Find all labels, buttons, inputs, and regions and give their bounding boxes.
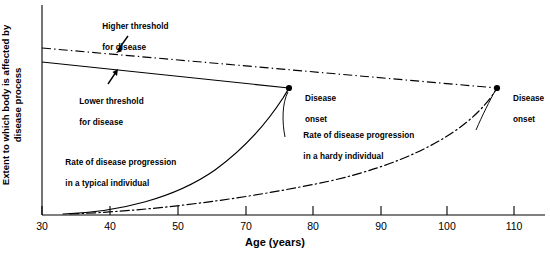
x-tick-label-40: 40 — [90, 220, 130, 232]
higher-threshold-annotation-line1: Higher threshold — [102, 22, 168, 31]
y-axis-label-line1: Extent to which body is affected by — [0, 25, 11, 185]
lower-threshold-annotation: Lower threshold for disease — [70, 86, 144, 139]
series-lower-threshold — [42, 62, 289, 88]
y-axis-label: Extent to which body is affected by dise… — [0, 0, 23, 215]
x-tick-label-100: 100 — [427, 220, 467, 232]
disease-onset-typical-label-line2: onset — [305, 115, 327, 124]
disease-onset-typical-label-line1: Disease — [305, 94, 336, 103]
x-axis-ticks — [42, 206, 514, 215]
x-tick-label-80: 80 — [293, 220, 333, 232]
typical-individual-annotation: Rate of disease progression in a typical… — [56, 147, 176, 200]
lower-threshold-annotation-line1: Lower threshold — [79, 97, 143, 106]
disease-onset-typical-label: Disease onset — [296, 83, 336, 136]
x-tick-label-70: 70 — [226, 220, 266, 232]
x-axis-label: Age (years) — [0, 236, 550, 248]
typical-individual-annotation-line2: in a typical individual — [65, 179, 149, 188]
typical-individual-annotation-line1: Rate of disease progression — [65, 158, 176, 167]
disease-onset-hardy-label-line1: Disease — [513, 94, 544, 103]
marker-disease-onset-hardy — [494, 85, 500, 91]
disease-onset-hardy-label: Disease onset — [504, 83, 544, 136]
x-tick-label-50: 50 — [158, 220, 198, 232]
lower-threshold-arrow-icon — [108, 69, 118, 84]
x-tick-label-110: 110 — [494, 220, 534, 232]
marker-disease-onset-typical — [286, 85, 292, 91]
x-tick-label-90: 90 — [361, 220, 401, 232]
higher-threshold-annotation-line2: for disease — [102, 43, 146, 52]
y-axis-label-line2: disease process — [12, 68, 23, 143]
hardy-individual-annotation-line2: in a hardy individual — [303, 152, 383, 161]
higher-threshold-annotation: Higher threshold for disease — [93, 11, 169, 64]
x-tick-label-30: 30 — [22, 220, 62, 232]
disease-onset-hardy-label-line2: onset — [513, 115, 535, 124]
lower-threshold-annotation-line2: for disease — [79, 118, 123, 127]
chart-figure: 30 40 50 70 80 90 100 110 Age (years) Ex… — [0, 0, 550, 257]
hardy-annotation-leader-line — [283, 92, 288, 137]
